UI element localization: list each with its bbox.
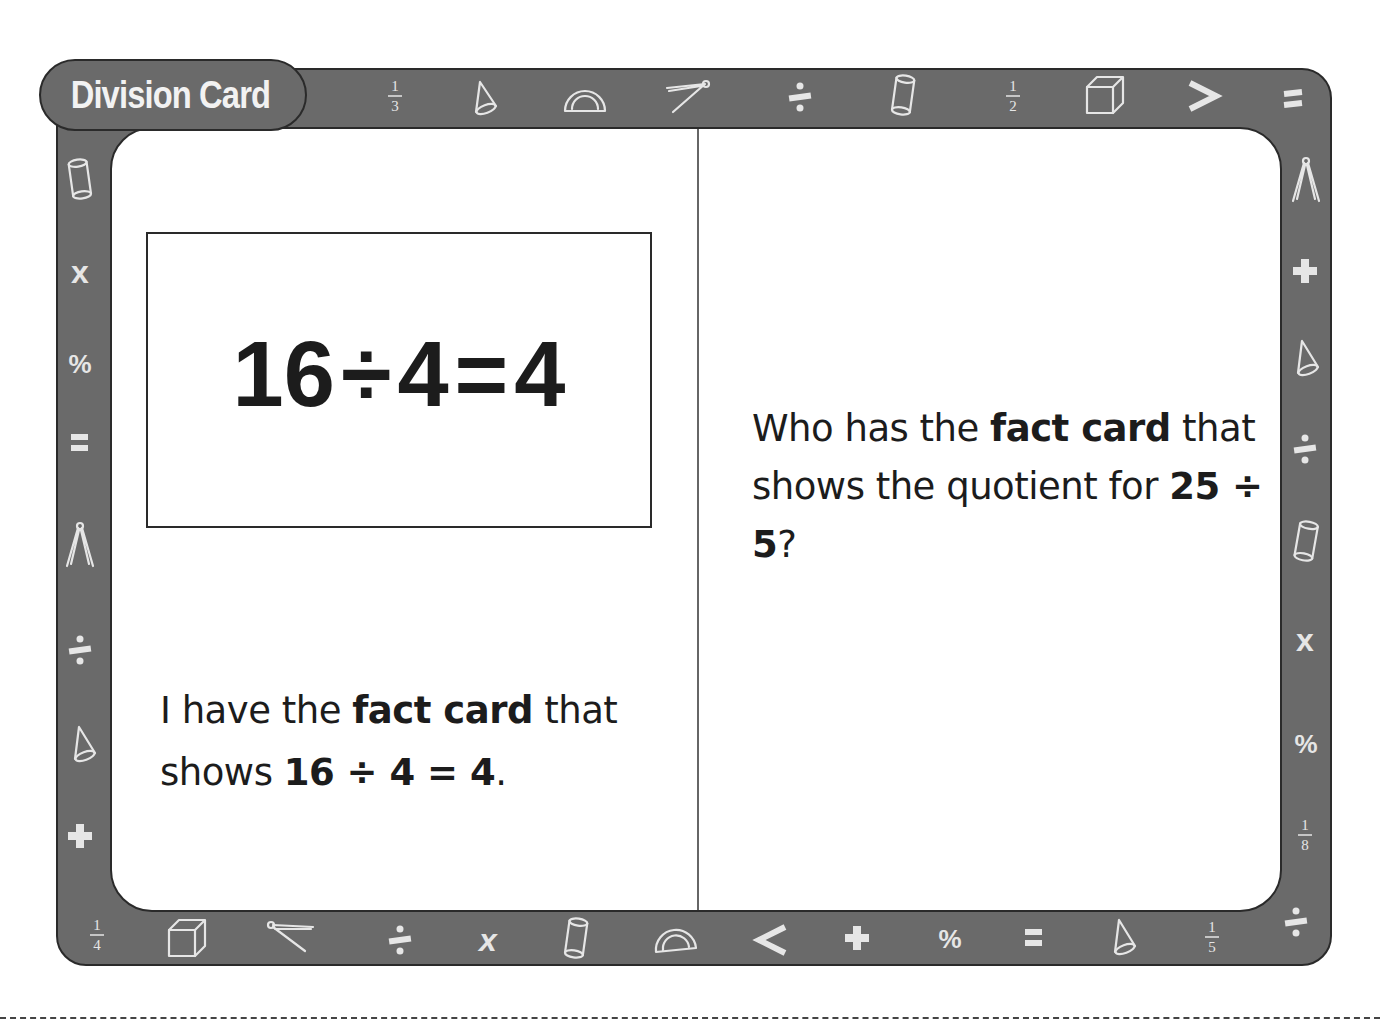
- card-title-tab: Division Card: [39, 59, 307, 131]
- svg-text:1: 1: [1009, 78, 1017, 94]
- who-has-question: Who has the fact card that shows the quo…: [752, 400, 1272, 574]
- svg-text:1: 1: [1301, 817, 1309, 833]
- percent-icon: %: [57, 340, 103, 386]
- statement-text: I have the: [160, 689, 352, 732]
- cylinder-icon: [1283, 519, 1329, 565]
- cone-icon: [1101, 914, 1147, 960]
- cylinder-icon: [57, 157, 103, 203]
- times-icon: x: [465, 917, 511, 963]
- i-have-statement: I have the fact card that shows 16 ÷ 4 =…: [160, 680, 680, 804]
- protractor-icon: [653, 916, 699, 962]
- cylinder-icon: [553, 916, 599, 962]
- compass-icon: [57, 522, 103, 568]
- svg-text:%: %: [1294, 729, 1317, 759]
- statement-bold-term: fact card: [352, 689, 533, 732]
- fraction-one-fifth-icon: 15: [1189, 914, 1235, 960]
- cube-icon: [165, 916, 211, 962]
- quotient: 4: [514, 323, 565, 425]
- cylinder-icon: [880, 73, 926, 119]
- fact-box: 16÷4=4: [146, 232, 652, 528]
- svg-text:x: x: [477, 922, 498, 958]
- cone-icon: [1284, 335, 1330, 381]
- svg-text:8: 8: [1301, 837, 1309, 853]
- divide-icon: [777, 74, 823, 120]
- svg-text:1: 1: [93, 917, 101, 933]
- fraction-one-half-icon: 12: [990, 73, 1036, 119]
- divide-symbol: ÷: [335, 323, 398, 425]
- compass-icon: [267, 917, 313, 963]
- question-text: ?: [777, 523, 796, 566]
- dividend: 16: [233, 323, 335, 425]
- svg-text:4: 4: [93, 937, 101, 953]
- greater-than-icon: [1180, 73, 1226, 119]
- equals-icon: [1270, 75, 1316, 121]
- fraction-one-quarter-icon: 14: [74, 912, 120, 958]
- card-title: Division Card: [71, 74, 276, 117]
- divide-icon: [1282, 426, 1328, 472]
- divide-icon: [377, 917, 423, 963]
- divisor: 4: [397, 323, 448, 425]
- compass-icon: [665, 74, 711, 120]
- svg-text:%: %: [938, 924, 961, 954]
- cone-icon: [462, 74, 508, 120]
- less-than-icon: [749, 917, 795, 963]
- panel-divider: [697, 129, 699, 910]
- svg-text:1: 1: [1208, 919, 1216, 935]
- fraction-one-third-icon: 13: [372, 73, 418, 119]
- times-icon: x: [1282, 617, 1328, 663]
- plus-icon: [1282, 248, 1328, 294]
- question-bold-term: fact card: [990, 407, 1171, 450]
- question-text: Who has the: [752, 407, 990, 450]
- svg-text:2: 2: [1009, 98, 1017, 114]
- dashed-cut-line: [0, 1017, 1380, 1019]
- fact-equation: 16÷4=4: [233, 322, 566, 427]
- cone-icon: [61, 721, 107, 767]
- statement-text: .: [495, 751, 506, 794]
- percent-icon: %: [927, 915, 973, 961]
- compass-icon: [1283, 157, 1329, 203]
- plus-icon: [57, 813, 103, 859]
- equals-icon: [57, 419, 103, 465]
- svg-text:1: 1: [391, 78, 399, 94]
- times-icon: x: [57, 249, 103, 295]
- percent-icon: %: [1283, 720, 1329, 766]
- divide-icon: [1273, 899, 1319, 945]
- svg-text:3: 3: [391, 98, 399, 114]
- equals-icon: [1011, 914, 1057, 960]
- svg-text:x: x: [71, 254, 89, 290]
- svg-text:x: x: [1296, 622, 1314, 658]
- fraction-one-eighth-icon: 18: [1282, 812, 1328, 858]
- divide-icon: [57, 627, 103, 673]
- svg-text:5: 5: [1208, 939, 1216, 955]
- cube-icon: [1081, 73, 1127, 119]
- plus-icon: [834, 915, 880, 961]
- equals-symbol: =: [449, 323, 515, 425]
- svg-text:%: %: [68, 349, 91, 379]
- statement-bold-equation: 16 ÷ 4 = 4: [284, 751, 496, 794]
- protractor-icon: [562, 77, 608, 123]
